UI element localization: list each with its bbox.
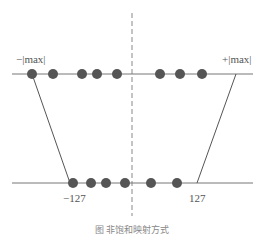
- int8-value-dot: [146, 178, 156, 188]
- int8-value-dot: [68, 178, 78, 188]
- float-value-dot: [92, 69, 102, 79]
- float-value-dots: [27, 69, 207, 79]
- float-value-dot: [197, 69, 207, 79]
- int8-value-dot: [120, 178, 130, 188]
- float-value-dot: [175, 69, 185, 79]
- quantization-mapping-diagram: −|max| +|max| −127 127 图 非饱和映射方式: [0, 0, 264, 234]
- neg-127-label: −127: [63, 193, 86, 204]
- float-value-dot: [77, 69, 87, 79]
- float-value-dot: [155, 69, 165, 79]
- int8-value-dot: [86, 178, 96, 188]
- right-mapping-line: [197, 74, 236, 183]
- float-value-dot: [48, 69, 58, 79]
- pos-max-label: +|max|: [222, 54, 252, 65]
- neg-max-label: −|max|: [16, 54, 46, 65]
- figure-caption: 图 非饱和映射方式: [0, 226, 264, 234]
- float-value-dot: [112, 69, 122, 79]
- int8-value-dot: [101, 178, 111, 188]
- float-value-dot: [27, 69, 37, 79]
- left-mapping-line: [32, 74, 70, 183]
- pos-127-label: 127: [189, 193, 206, 204]
- int8-value-dot: [172, 178, 182, 188]
